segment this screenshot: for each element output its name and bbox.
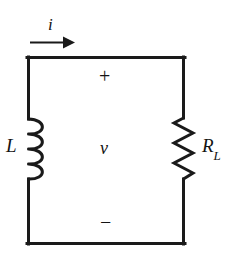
polarity-positive-sign: +	[99, 66, 110, 86]
current-arrow-head	[63, 37, 75, 49]
inductor-coil	[29, 119, 43, 179]
resistor-label-main: R	[202, 135, 214, 156]
current-label: i	[48, 16, 53, 33]
circuit-diagram: i L RL v + −	[0, 0, 244, 262]
polarity-negative-sign: −	[100, 212, 111, 232]
voltage-label: v	[100, 139, 108, 157]
resistor-label: RL	[202, 136, 221, 159]
resistor-zigzag	[174, 118, 193, 179]
inductor-label: L	[6, 136, 17, 155]
circuit-schematic-svg	[0, 0, 244, 262]
resistor-label-subscript: L	[214, 148, 221, 163]
